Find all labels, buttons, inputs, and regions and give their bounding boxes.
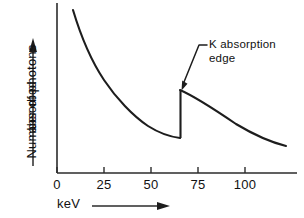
x-tick-label-0: 0 (53, 177, 61, 192)
y-axis-label-secondary: absorbed (25, 62, 39, 152)
annotation-arrowhead-icon (182, 81, 188, 91)
x-tick-label-100: 100 (234, 177, 257, 192)
x-axis-direction-arrowhead-icon (157, 202, 170, 210)
x-tick-label-50: 50 (143, 177, 158, 192)
x-tick-label-75: 75 (190, 177, 205, 192)
absorption-curve-before-edge (73, 10, 180, 138)
absorption-curve-after-edge (180, 90, 286, 146)
chart-figure: 0 25 50 75 100 Number of photons absorbe… (0, 0, 304, 218)
annotation-leader-line (184, 45, 207, 82)
x-axis-label: keV (57, 196, 80, 211)
x-tick-label-25: 25 (96, 177, 111, 192)
k-absorption-edge-annotation: K absorption edge (209, 38, 276, 65)
